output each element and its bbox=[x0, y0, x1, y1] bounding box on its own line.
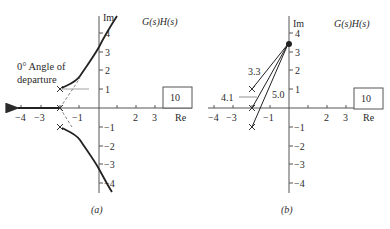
imag-tick-label: 2 bbox=[295, 65, 300, 76]
asymptote-upper-a bbox=[60, 78, 80, 108]
gain-box-label-b: 10 bbox=[361, 93, 371, 104]
caption-b: (b) bbox=[281, 204, 293, 216]
distance-label-4-1: 4.1 bbox=[221, 92, 234, 103]
distance-label-3-3: 3.3 bbox=[248, 66, 261, 77]
imag-tick-label: −2 bbox=[104, 141, 115, 152]
real-tick-label: 3 bbox=[152, 112, 157, 123]
real-tick-label: −4 bbox=[208, 112, 219, 123]
caption-a: (a) bbox=[91, 204, 103, 216]
real-tick-label: 2 bbox=[324, 112, 329, 123]
annotation-angle-of-departure: 0° Angle of bbox=[17, 61, 66, 72]
panel-b: Im Re G(s)H(s) 1 2 3 4 −1 −2 −3 −4 −4 −3… bbox=[208, 16, 383, 216]
imag-tick-label: −4 bbox=[294, 178, 305, 189]
imag-tick-label: −3 bbox=[294, 159, 305, 170]
real-tick-label: −1 bbox=[72, 112, 83, 123]
pole-x-icon bbox=[249, 124, 255, 130]
pole-x-icon bbox=[249, 86, 255, 92]
pole-x-icon bbox=[57, 124, 63, 130]
function-label-b: G(s)H(s) bbox=[334, 18, 370, 30]
real-axis-label-b: Re bbox=[363, 112, 375, 123]
root-locus-figure: Im Re G(s)H(s) 1 2 3 4 −1 −2 −3 −4 −4 −3… bbox=[0, 0, 390, 229]
real-tick-label: −4 bbox=[15, 112, 26, 123]
imag-tick-label: 1 bbox=[295, 84, 300, 95]
annotation-departure: departure bbox=[17, 74, 57, 85]
real-tick-label: −1 bbox=[263, 112, 274, 123]
real-tick-label: −3 bbox=[226, 112, 237, 123]
imag-tick-label: −3 bbox=[104, 159, 115, 170]
imag-tick-label: 3 bbox=[295, 47, 300, 58]
real-tick-label: −3 bbox=[34, 112, 45, 123]
imag-tick-label: 1 bbox=[105, 84, 110, 95]
function-label-a: G(s)H(s) bbox=[142, 16, 178, 28]
imag-tick-label: 4 bbox=[295, 28, 300, 39]
asymptote-lower-a bbox=[60, 108, 72, 127]
distance-label-5-0: 5.0 bbox=[272, 89, 285, 100]
test-point-icon bbox=[286, 41, 292, 47]
real-axis-label-a: Re bbox=[175, 112, 187, 123]
imag-tick-label: −1 bbox=[294, 122, 305, 133]
imag-tick-label: −1 bbox=[104, 122, 115, 133]
imag-tick-label: −2 bbox=[294, 141, 305, 152]
imag-axis-label-a: Im bbox=[103, 12, 114, 23]
real-tick-label: 3 bbox=[343, 112, 348, 123]
imag-tick-label: 4 bbox=[105, 28, 110, 39]
imag-tick-label: 3 bbox=[105, 47, 110, 58]
panel-a: Im Re G(s)H(s) 1 2 3 4 −1 −2 −3 −4 −4 −3… bbox=[14, 12, 192, 216]
imag-tick-label: −4 bbox=[104, 178, 115, 189]
real-tick-label: 2 bbox=[133, 112, 138, 123]
gain-box-label-a: 10 bbox=[170, 92, 180, 103]
imag-tick-label: 2 bbox=[105, 65, 110, 76]
